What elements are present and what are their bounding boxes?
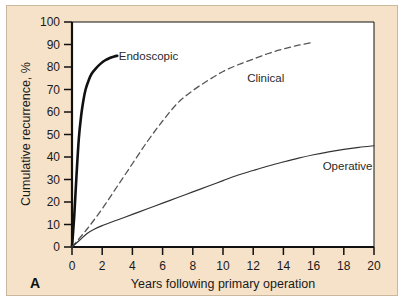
y-tick-label-50: 50 xyxy=(47,128,61,142)
y-tick-label-10: 10 xyxy=(47,218,61,232)
x-tick-label-8: 8 xyxy=(189,259,196,273)
series-label-clinical: Clinical xyxy=(247,72,284,84)
y-tick-label-30: 30 xyxy=(47,173,61,187)
x-tick-label-12: 12 xyxy=(247,259,261,273)
series-label-operative: Operative xyxy=(323,160,373,172)
y-tick-label-90: 90 xyxy=(47,38,61,52)
y-axis-ticks xyxy=(64,22,72,247)
chart-svg: 0102030405060708090100 02468101214161820… xyxy=(0,0,406,307)
x-tick-label-2: 2 xyxy=(99,259,106,273)
y-tick-label-0: 0 xyxy=(53,240,60,254)
x-tick-label-14: 14 xyxy=(277,259,291,273)
y-axis-title: Cumulative recurrence, % xyxy=(19,62,33,206)
y-tick-label-70: 70 xyxy=(47,83,61,97)
panel-letter: A xyxy=(30,275,40,291)
figure-container: 0102030405060708090100 02468101214161820… xyxy=(0,0,406,307)
x-tick-label-0: 0 xyxy=(69,259,76,273)
x-tick-label-4: 4 xyxy=(129,259,136,273)
x-tick-label-20: 20 xyxy=(367,259,381,273)
x-axis-title: Years following primary operation xyxy=(131,277,315,291)
y-tick-label-80: 80 xyxy=(47,60,61,74)
x-tick-label-10: 10 xyxy=(216,259,230,273)
y-tick-label-60: 60 xyxy=(47,105,61,119)
x-tick-label-16: 16 xyxy=(307,259,321,273)
y-axis-tick-labels: 0102030405060708090100 xyxy=(40,15,60,254)
x-axis-ticks xyxy=(72,247,374,255)
y-tick-label-100: 100 xyxy=(40,15,60,29)
series-label-endoscopic: Endoscopic xyxy=(119,50,179,62)
y-tick-label-40: 40 xyxy=(47,150,61,164)
x-tick-label-6: 6 xyxy=(159,259,166,273)
x-tick-label-18: 18 xyxy=(337,259,351,273)
x-axis-tick-labels: 02468101214161820 xyxy=(69,259,381,273)
y-tick-label-20: 20 xyxy=(47,195,61,209)
